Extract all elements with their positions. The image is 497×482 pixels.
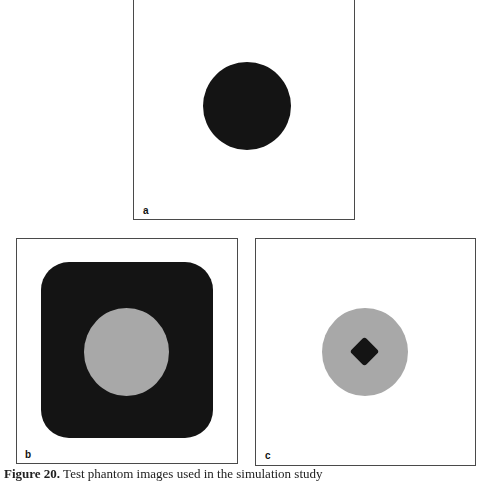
figure-number: Figure 20. <box>4 466 60 481</box>
dark-disk <box>203 62 291 150</box>
panel-label-b: b <box>25 449 31 460</box>
gray-disk <box>84 308 169 396</box>
caption-text: Test phantom images used in the simulati… <box>63 466 322 481</box>
panel-b: b <box>16 238 238 464</box>
panel-label-a: a <box>143 205 149 216</box>
panel-a: a <box>133 0 355 220</box>
panel-c: c <box>255 238 476 466</box>
panel-label-c: c <box>265 450 271 461</box>
figure-caption: Figure 20. Test phantom images used in t… <box>4 466 323 482</box>
